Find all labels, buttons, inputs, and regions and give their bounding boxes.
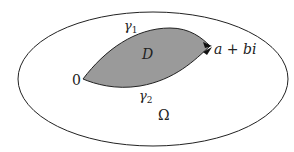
- region-d-label: D: [141, 46, 153, 62]
- gamma2-label: γ2: [139, 88, 153, 105]
- diagram-canvas: γ1 γ2 D Ω 0 a + bi: [0, 0, 294, 152]
- endpoint-label: a + bi: [214, 41, 256, 57]
- gamma1-label: γ1: [124, 18, 138, 35]
- omega-label: Ω: [158, 107, 170, 123]
- origin-label: 0: [72, 72, 81, 88]
